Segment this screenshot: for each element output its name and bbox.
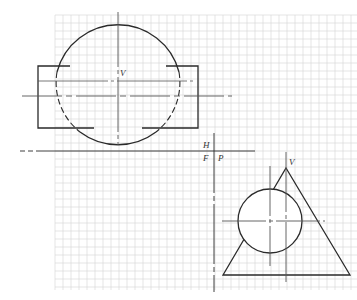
fold-label-p: P (218, 154, 224, 163)
fold-label-f: F (203, 154, 209, 163)
top-vertex-label: V (120, 69, 126, 78)
profile-vertex-label: V (289, 158, 295, 167)
drawing-canvas (0, 0, 357, 300)
profile-view (222, 152, 350, 283)
fold-label-h: H (203, 141, 210, 150)
